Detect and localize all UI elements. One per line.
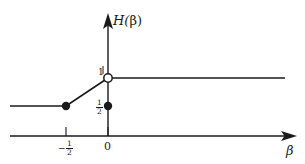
closed-point-origin-half [104,102,112,110]
y-value-label-one: 1 [98,68,104,77]
closed-point-neg-half [62,102,70,110]
fraction-one-half: 12 [66,140,73,156]
x-axis-label: β [286,144,294,157]
y-axis-label-text: H( [113,13,129,28]
y-axis-label: H(β) [113,14,142,27]
y-value-label-half: 12 [96,99,103,116]
fraction-one-half: 12 [96,99,103,115]
fraction-denominator: 2 [66,149,73,157]
function-plot-figure: H(β) β 1 12 0 −12 [0,0,305,164]
fraction-denominator: 2 [96,108,103,116]
y-axis-label-paren: ) [137,13,142,28]
x-tick-label-neg-half: −12 [58,140,73,156]
minus-sign: − [58,144,66,153]
plot-canvas [0,0,305,164]
open-point-origin-one [104,74,112,82]
x-tick-label-zero: 0 [104,141,111,152]
y-axis-label-variable: β [129,13,137,28]
